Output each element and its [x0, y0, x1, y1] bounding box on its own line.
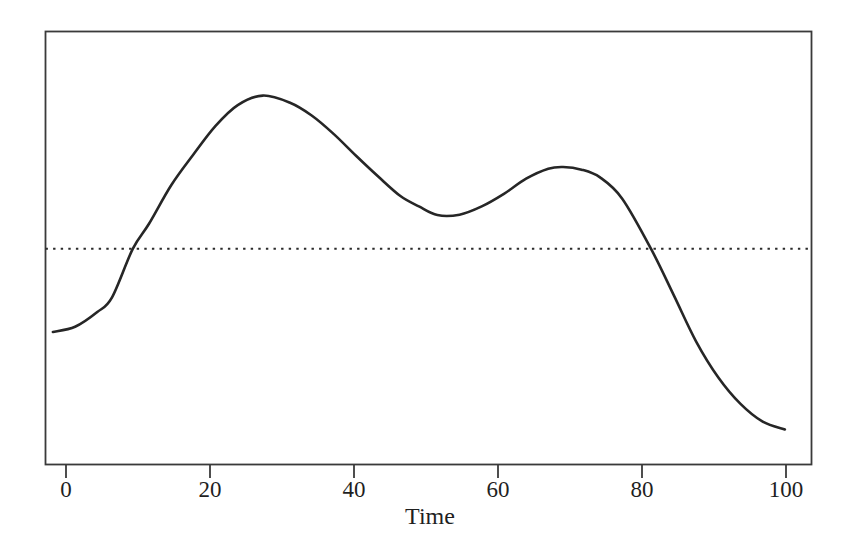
x-tick-label-60: 60: [487, 477, 510, 503]
x-tick-label-40: 40: [343, 477, 366, 503]
x-tick-label-100: 100: [769, 477, 804, 503]
x-tick-label-20: 20: [199, 477, 222, 503]
x-axis-ticks: [66, 465, 786, 478]
x-tick-label-0: 0: [60, 477, 72, 503]
data-curve: [53, 96, 785, 430]
x-axis-label: Time: [405, 503, 455, 530]
x-tick-label-80: 80: [631, 477, 654, 503]
chart-plot-area: [0, 0, 852, 558]
chart-figure: 0 20 40 60 80 100 Time: [0, 0, 852, 558]
